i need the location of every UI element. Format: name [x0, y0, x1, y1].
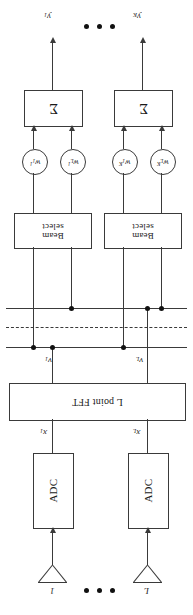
- wire-lower-bus-to-v1: [52, 347, 53, 383]
- wire-xL-to-fft: [147, 419, 148, 453]
- ellipsis-antennas: [84, 588, 115, 593]
- signal-v1-label: v1: [45, 356, 52, 365]
- sum-block-K-label: Σ: [139, 101, 148, 116]
- arrowhead-y1: [50, 37, 56, 43]
- wire-bus-upper-to-beamselectK: [161, 247, 162, 309]
- weight-w1-K-label: w1K: [119, 158, 130, 166]
- junction-dot-upper-1: [69, 306, 74, 311]
- l-point-fft: L point FFT: [9, 383, 186, 421]
- adc-1: ADC: [33, 453, 74, 529]
- sum-block-1-label: Σ: [49, 101, 58, 116]
- l-point-fft-label: L point FFT: [72, 397, 123, 407]
- output-y1-label: y1: [44, 12, 51, 21]
- wire-vL-to-upper-bus: [147, 308, 148, 383]
- wire-sumK-to-yK: [142, 43, 143, 90]
- beam-select-1: Beamselect: [14, 213, 92, 249]
- weight-wL-1: wL1: [60, 149, 86, 175]
- adc-L-label: ADC: [143, 479, 154, 503]
- sum-block-K: Σ: [114, 90, 173, 127]
- weight-wL-1-label: wL1: [68, 158, 79, 166]
- junction-dot-upper-3: [159, 306, 164, 311]
- junction-dot-lower-2: [50, 345, 55, 350]
- wire-beamselect1-to-w1-1: [33, 173, 34, 213]
- antenna-1-label: 1: [50, 586, 55, 595]
- wire-w1-1-to-sum1: [33, 131, 34, 149]
- weight-w1-1: w11: [22, 149, 48, 175]
- arrowhead-wL-K-to-sum: [159, 125, 165, 131]
- wire-sum1-to-y1: [52, 43, 53, 90]
- beam-select-K-label: Beamselect: [132, 222, 154, 240]
- weight-wL-K-label: wLK: [157, 158, 169, 166]
- wire-beamselect1-to-wL-1: [71, 173, 72, 213]
- arrowhead-antennaL-to-adc: [145, 527, 151, 533]
- junction-dot-upper-2: [145, 306, 150, 311]
- wire-wL-K-to-sumK: [161, 131, 162, 149]
- arrowhead-yK: [140, 37, 146, 43]
- signal-x1-label: x1: [40, 428, 47, 437]
- antenna-L-label: L: [144, 586, 149, 595]
- sum-block-1: Σ: [24, 90, 83, 127]
- wire-x1-to-fft: [52, 419, 53, 453]
- signal-vL-label: vL: [136, 356, 143, 365]
- wire-bus-v1-to-beamselect1: [33, 247, 34, 348]
- arrowhead-w1-K-to-sum: [121, 125, 127, 131]
- wire-beamselectK-to-w1-K: [123, 173, 124, 213]
- arrowhead-wL-1-to-sum: [69, 125, 75, 131]
- adc-1-label: ADC: [48, 479, 59, 503]
- wire-bus-upper-to-beamselect1: [71, 247, 72, 309]
- ellipsis-outputs: [84, 24, 115, 29]
- weight-wL-K: wLK: [150, 149, 176, 175]
- figure-canvas: y1 yK Σ Σ w11 wL1 w1K wLK Beamselect: [0, 0, 193, 615]
- beam-select-1-label: Beamselect: [42, 222, 64, 240]
- adc-L: ADC: [128, 453, 169, 529]
- output-yK-label: yK: [133, 12, 141, 21]
- weight-w1-K: w1K: [112, 149, 138, 175]
- wire-antennaL-to-adcL: [147, 533, 148, 565]
- wire-wL-1-to-sum1: [71, 131, 72, 149]
- wire-bus-v1-to-beamselectK: [123, 247, 124, 348]
- wire-beamselectK-to-wL-K: [161, 173, 162, 213]
- junction-dot-lower-3: [121, 345, 126, 350]
- arrowhead-w1-1-to-sum: [31, 125, 37, 131]
- weight-w1-1-label: w11: [30, 158, 41, 166]
- arrowhead-antenna1-to-adc: [50, 527, 56, 533]
- signal-xL-label: xL: [133, 428, 140, 437]
- junction-dot-lower-1: [31, 345, 36, 350]
- beam-select-K: Beamselect: [104, 213, 182, 249]
- wire-antenna1-to-adc1: [52, 533, 53, 565]
- wire-w1-K-to-sumK: [123, 131, 124, 149]
